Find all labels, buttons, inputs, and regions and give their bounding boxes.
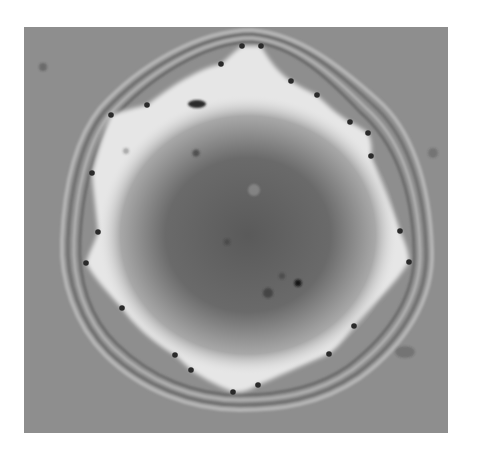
film-rendering — [24, 27, 448, 433]
micrograph-image — [24, 27, 448, 433]
dark-core — [98, 95, 398, 375]
